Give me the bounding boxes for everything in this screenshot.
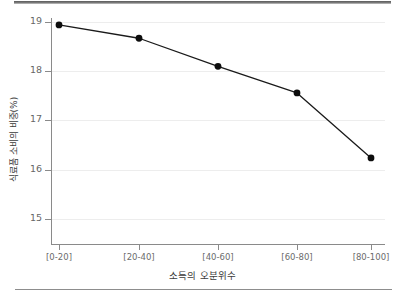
data-point-20-40	[136, 35, 143, 42]
series-layer	[0, 0, 405, 301]
bottom-divider-rule	[15, 289, 392, 290]
data-point-60-80	[294, 90, 301, 97]
data-point-0-20	[56, 22, 63, 29]
series-line-food-share	[59, 25, 371, 158]
data-point-80-100	[368, 155, 375, 162]
data-point-40-60	[215, 63, 222, 70]
series-markers	[56, 22, 375, 162]
chart-figure: 19 18 17 16 15 [0-20] [20-40] [40-60] [6…	[0, 0, 405, 301]
